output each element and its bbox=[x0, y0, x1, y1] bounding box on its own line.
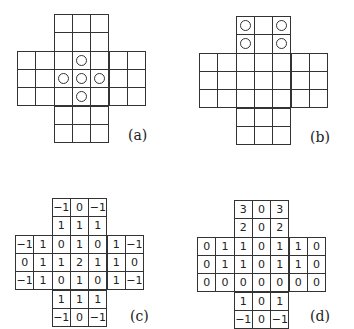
board-cell: 0 bbox=[252, 292, 271, 311]
board-cell bbox=[54, 32, 73, 51]
cell-value: 1 bbox=[94, 219, 101, 232]
cell-value: 0 bbox=[258, 258, 265, 271]
board-cell bbox=[254, 16, 273, 35]
board-cell: 1 bbox=[70, 235, 89, 254]
cell-value: 1 bbox=[276, 258, 283, 271]
cell-value: 1 bbox=[113, 256, 120, 269]
board-cell bbox=[90, 87, 109, 106]
board-cell: 1 bbox=[33, 271, 52, 290]
board-cell bbox=[127, 87, 146, 106]
cell-value: 2 bbox=[76, 256, 83, 269]
board-cell: 1 bbox=[52, 253, 71, 272]
cell-value: 1 bbox=[240, 295, 247, 308]
board-cell bbox=[54, 69, 73, 88]
board-cell: −1 bbox=[88, 198, 107, 217]
board-cell bbox=[272, 34, 291, 53]
board-cell: 0 bbox=[307, 273, 326, 292]
board-cell bbox=[254, 71, 273, 90]
cell-value: −1 bbox=[126, 274, 142, 287]
board-cell bbox=[90, 106, 109, 125]
board-cell: 1 bbox=[33, 235, 52, 254]
board-cell: 1 bbox=[289, 255, 308, 274]
cell-value: 1 bbox=[58, 293, 65, 306]
cell-value: 1 bbox=[276, 240, 283, 253]
board-cell: −1 bbox=[52, 198, 71, 217]
cell-value: 0 bbox=[76, 311, 83, 324]
board-cell: 1 bbox=[234, 237, 253, 256]
board-cell: 1 bbox=[234, 292, 253, 311]
board-cell: 0 bbox=[252, 255, 271, 274]
cell-value: 1 bbox=[295, 258, 302, 271]
cell-value: −1 bbox=[53, 201, 69, 214]
board-cell bbox=[90, 32, 109, 51]
cell-value: 0 bbox=[203, 276, 210, 289]
cell-value: 1 bbox=[76, 293, 83, 306]
board-cell: 1 bbox=[88, 253, 107, 272]
board-cell: −1 bbox=[125, 235, 144, 254]
cell-value: 0 bbox=[131, 256, 138, 269]
cell-value: 0 bbox=[258, 240, 265, 253]
board-cell: 1 bbox=[52, 216, 71, 235]
cell-value: 1 bbox=[94, 256, 101, 269]
board-cell bbox=[35, 69, 54, 88]
board-cell: −1 bbox=[15, 271, 34, 290]
peg-icon bbox=[276, 20, 287, 31]
board-cell bbox=[254, 108, 273, 127]
panel-label: (a) bbox=[128, 127, 147, 143]
board-cell: −1 bbox=[88, 308, 107, 327]
cell-value: 1 bbox=[58, 256, 65, 269]
panel-label: (d) bbox=[310, 308, 330, 324]
peg-icon bbox=[240, 38, 251, 49]
board-cell bbox=[272, 53, 291, 72]
board-cell: 0 bbox=[270, 273, 289, 292]
board-cell bbox=[199, 53, 218, 72]
panel-label: (b) bbox=[310, 129, 330, 145]
board-cell: 0 bbox=[70, 308, 89, 327]
board-cell: 0 bbox=[252, 237, 271, 256]
board-cell: 2 bbox=[70, 253, 89, 272]
board-cell bbox=[199, 89, 218, 108]
cell-value: 0 bbox=[258, 313, 265, 326]
board-cell: −1 bbox=[270, 310, 289, 329]
cell-value: 0 bbox=[258, 295, 265, 308]
board-cell: 3 bbox=[270, 200, 289, 219]
board-cell bbox=[291, 89, 310, 108]
board-cell bbox=[309, 89, 328, 108]
cell-value: −1 bbox=[90, 201, 106, 214]
cell-value: 1 bbox=[39, 238, 46, 251]
board-cell: 0 bbox=[70, 198, 89, 217]
board-cell bbox=[72, 106, 91, 125]
board-cell bbox=[236, 53, 255, 72]
board-cell: 0 bbox=[215, 273, 234, 292]
board-cell: 1 bbox=[88, 216, 107, 235]
board-cell: 1 bbox=[107, 271, 126, 290]
board-cell: −1 bbox=[52, 308, 71, 327]
cell-value: −1 bbox=[53, 311, 69, 324]
cell-value: 1 bbox=[39, 256, 46, 269]
cell-value: 2 bbox=[276, 221, 283, 234]
board-cell bbox=[54, 51, 73, 70]
cell-value: 2 bbox=[240, 221, 247, 234]
cell-value: −1 bbox=[17, 274, 33, 287]
board-cell: 0 bbox=[197, 237, 216, 256]
board-cell bbox=[35, 51, 54, 70]
board-cell: 0 bbox=[88, 271, 107, 290]
board-cell: 0 bbox=[125, 253, 144, 272]
board-cell bbox=[109, 87, 128, 106]
peg-icon bbox=[276, 38, 287, 49]
board-cell bbox=[236, 16, 255, 35]
cell-value: −1 bbox=[272, 313, 288, 326]
board-cell bbox=[54, 87, 73, 106]
board-cell: 1 bbox=[215, 255, 234, 274]
board-cell bbox=[254, 89, 273, 108]
board-cell: 1 bbox=[70, 290, 89, 309]
board-cell bbox=[272, 89, 291, 108]
board-cell: 0 bbox=[197, 273, 216, 292]
cell-value: 0 bbox=[21, 256, 28, 269]
cell-value: 0 bbox=[258, 276, 265, 289]
board-cell bbox=[54, 106, 73, 125]
board-cell bbox=[309, 71, 328, 90]
board-cell: −1 bbox=[234, 310, 253, 329]
cell-value: 1 bbox=[113, 238, 120, 251]
board-cell: 1 bbox=[289, 237, 308, 256]
